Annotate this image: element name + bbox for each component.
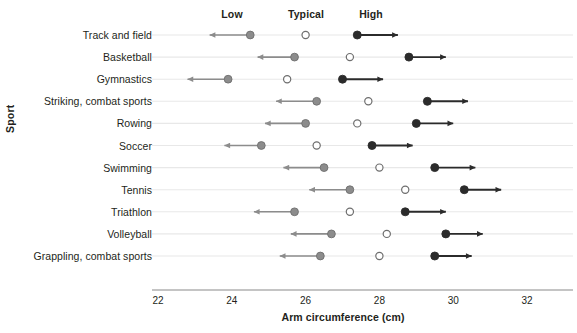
x-tick-label: 32 [521,295,532,306]
high-marker [423,97,431,105]
chart-row [210,31,398,39]
low-marker [346,186,354,194]
low-marker [313,97,321,105]
low-marker [302,120,310,128]
low-marker [246,31,254,39]
x-tick-label: 22 [152,295,163,306]
chart-row [265,119,453,127]
chart-row [283,164,475,172]
low-marker [257,142,265,150]
x-tick-label: 30 [448,295,459,306]
high-marker [401,208,409,216]
high-marker [353,31,361,39]
high-marker [368,142,376,150]
high-marker [460,186,468,194]
typical-marker [284,76,291,83]
typical-marker [302,31,309,38]
high-marker [431,164,439,172]
chart-row [280,252,472,260]
chart-row [309,186,501,194]
low-marker [320,164,328,172]
x-axis-title: Arm circumference (cm) [282,311,405,323]
typical-marker [383,230,390,237]
x-tick-label: 24 [226,295,237,306]
typical-marker [402,186,409,193]
low-marker [328,230,336,238]
high-marker [405,53,413,61]
chart-row [188,75,384,83]
chart-row [254,208,446,216]
chart-row [291,230,483,238]
high-marker [339,75,347,83]
plot-area [0,0,577,333]
typical-marker [313,142,320,149]
high-marker [431,252,439,260]
low-marker [224,75,232,83]
typical-marker [376,252,383,259]
high-marker [412,119,420,127]
typical-marker [346,208,353,215]
arm-circumference-chart: Low Typical High Sport Track and fieldBa… [0,0,577,333]
typical-marker [354,120,361,127]
chart-row [258,53,446,61]
low-marker [291,208,299,216]
typical-marker [376,164,383,171]
low-marker [316,252,324,260]
x-tick-label: 26 [300,295,311,306]
chart-row [276,97,468,105]
low-marker [291,53,299,61]
high-marker [442,230,450,238]
x-tick-label: 28 [374,295,385,306]
typical-marker [346,54,353,61]
chart-row [224,142,412,150]
typical-marker [365,98,372,105]
